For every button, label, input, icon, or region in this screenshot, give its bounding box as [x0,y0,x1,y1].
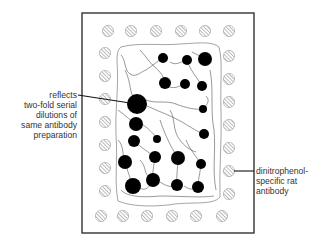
black-antibody-spot [196,159,206,169]
hatched-reference-dot [99,185,110,196]
hatched-reference-dot [99,47,110,58]
blot-region [116,43,221,206]
hatched-reference-dot [223,25,234,36]
hatched-reference-dot [150,25,161,36]
hatched-reference-dot [95,210,106,221]
annotation-line: same antibody [21,120,77,130]
hatched-reference-dot [99,162,110,173]
hatched-reference-dot [190,210,201,221]
hatched-reference-dot [99,70,110,81]
antibody-spots [118,52,212,194]
black-antibody-spot [171,179,183,191]
black-antibody-spot [182,55,192,65]
black-antibody-spot [198,52,212,66]
annotation-serial-dilutions: reflects two-fold serial dilutions of sa… [21,90,77,140]
annotation-line: two-fold serial [21,100,77,110]
hatched-reference-dot [223,119,234,130]
black-antibody-spot [159,77,171,89]
black-antibody-spot [197,81,207,91]
black-antibody-spot [153,135,161,143]
black-antibody-spot [171,151,185,165]
hatched-reference-dot [223,73,234,84]
black-antibody-spot [149,151,161,163]
black-antibody-spot [125,178,141,194]
hatched-reference-dot [166,210,177,221]
black-antibody-spot [199,129,209,139]
black-antibody-spot [199,105,207,113]
annotation-line: antibody [256,186,308,196]
hatched-reference-dot [223,50,234,61]
hatched-reference-dot [99,139,110,150]
hatched-reference-dot [141,210,152,221]
black-antibody-spot [129,117,143,131]
black-antibody-spot [127,94,147,114]
hatched-reference-dot [223,96,234,107]
hatched-reference-dot [102,25,113,36]
annotation-line: specific rat [256,176,308,186]
hatched-reference-dot [117,210,128,221]
hatched-reference-dot [125,25,136,36]
hatched-reference-dot [199,25,210,36]
annotation-line: reflects [21,90,77,100]
black-antibody-spot [146,173,160,187]
annotation-line: dinitrophenol- [256,166,308,176]
hatched-reference-dot [175,25,186,36]
hatched-reference-dot [223,188,234,199]
annotation-line: preparation [21,130,77,140]
black-antibody-spot [158,53,168,63]
black-antibody-spot [128,135,140,147]
black-antibody-spot [180,79,190,89]
annotation-dnp-antibody: dinitrophenol- specific rat antibody [256,166,308,196]
hatched-reference-dot [223,142,234,153]
annotation-line: dilutions of [21,110,77,120]
hatched-reference-dot [216,210,227,221]
hatched-reference-dot [223,165,234,176]
hatched-reference-dot [99,116,110,127]
black-antibody-spot [192,181,204,193]
black-antibody-spot [118,155,132,169]
